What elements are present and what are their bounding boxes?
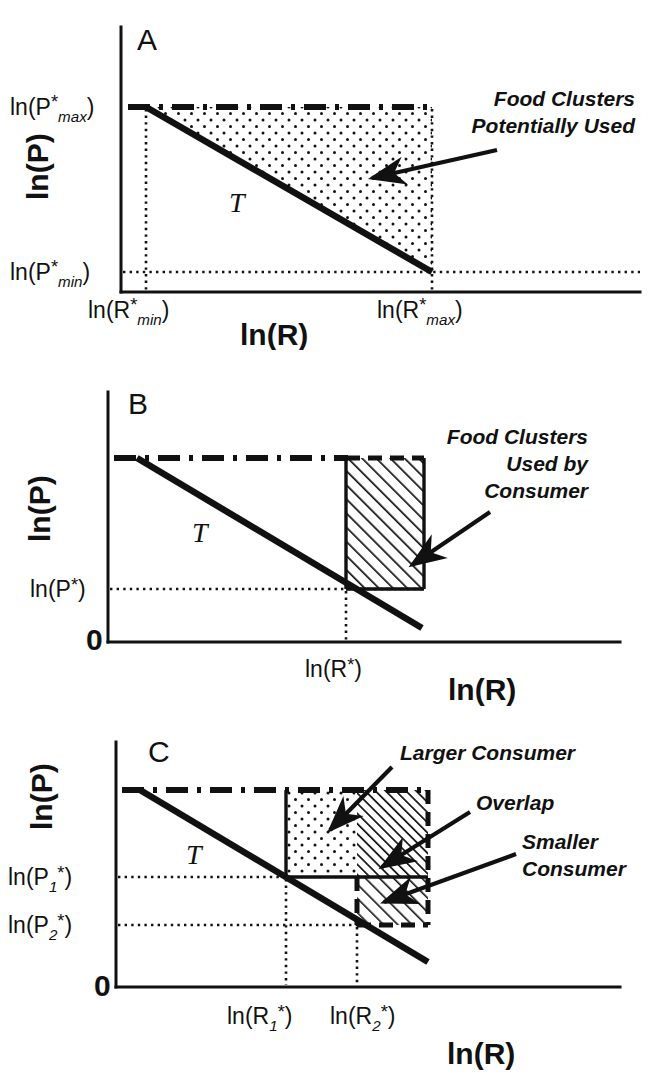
- origin-label-c: 0: [94, 969, 111, 1002]
- y-tick-label-p2-c: ln(P2*): [8, 910, 72, 943]
- y-tick-label-pmax-a: ln(P*max): [10, 91, 94, 125]
- y-tick-label-pstar-b: ln(P*): [30, 574, 86, 602]
- annotation-b-line3: Consumer: [484, 479, 590, 502]
- annotation-b-line1: Food Clusters: [447, 425, 588, 448]
- annotation-smaller-line2: Consumer: [522, 857, 628, 880]
- annotation-smaller-line1: Smaller: [522, 830, 600, 853]
- annotation-a-line1: Food Clusters: [494, 87, 635, 110]
- y-tick-label-pmin-a: ln(P*min): [10, 256, 90, 290]
- x-axis-title-b: ln(R): [448, 673, 516, 706]
- y-tick-label-p1-c: ln(P1*): [8, 862, 72, 895]
- panel-a: A T ln(P) ln(R) ln(P*max) ln(P*min) ln(R…: [0, 0, 653, 350]
- panel-label-b: B: [128, 387, 148, 420]
- region-overlap: [357, 790, 428, 877]
- annotation-larger-consumer: Larger Consumer: [400, 741, 577, 764]
- annotation-b-line2: Used by: [506, 452, 589, 475]
- curve-label-t-b: T: [192, 517, 210, 548]
- panel-label-a: A: [137, 23, 157, 56]
- curve-label-t-c: T: [186, 839, 204, 870]
- x-tick-label-r1-c: ln(R1*): [227, 1001, 292, 1034]
- x-tick-label-rmin-a: ln(R*min): [88, 294, 169, 328]
- figure-root: A T ln(P) ln(R) ln(P*max) ln(P*min) ln(R…: [0, 0, 653, 1077]
- region-larger-consumer: [286, 790, 357, 877]
- x-tick-label-rmax-a: ln(R*max): [377, 294, 463, 328]
- y-axis-title-c: ln(P): [25, 763, 58, 830]
- y-axis-title-b: ln(P): [23, 475, 56, 542]
- panel-label-c: C: [148, 735, 170, 768]
- curve-label-t-a: T: [229, 187, 247, 218]
- x-axis-title-c: ln(R): [447, 1037, 515, 1070]
- origin-label-b: 0: [86, 623, 103, 656]
- annotation-overlap: Overlap: [476, 791, 554, 814]
- panel-c: C T ln(P) ln(R) 0 ln(P1*) ln(P2*) ln(R1*…: [0, 712, 653, 1077]
- annotation-a-line2: Potentially Used: [472, 114, 637, 137]
- y-axis-title-a: ln(P): [21, 133, 54, 200]
- x-tick-label-rstar-b: ln(R*): [305, 654, 362, 682]
- panel-b: B T ln(P) ln(R) 0 ln(P*) ln(R*) Food Clu…: [0, 352, 653, 712]
- region-food-clusters-used-by-consumer: [346, 458, 424, 589]
- x-axis-title-a: ln(R): [240, 318, 308, 350]
- x-tick-label-r2-c: ln(R2*): [330, 1001, 395, 1034]
